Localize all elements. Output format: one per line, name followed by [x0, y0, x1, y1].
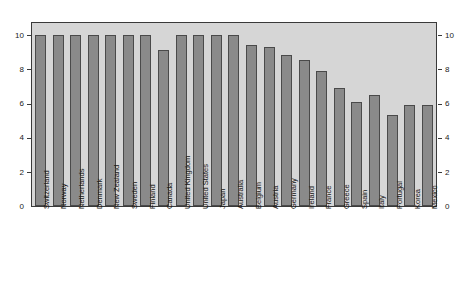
y-tick-label: 2: [445, 169, 449, 177]
x-tick-label: Finland: [149, 184, 157, 209]
x-tick-slot: Netherlands: [69, 209, 80, 295]
x-tick-slot: Spain: [352, 209, 363, 295]
bar: [211, 35, 222, 206]
x-tick-label: Denmark: [96, 179, 104, 209]
y-tick-mark: [438, 104, 442, 105]
x-tick-slot: Austria: [264, 209, 275, 295]
y-tick-label: 0: [20, 203, 24, 211]
y-tick-mark: [438, 138, 442, 139]
x-tick-slot: Italy: [370, 209, 381, 295]
x-tick-label: Korea: [414, 189, 422, 209]
x-tick-slot: New Zealand: [105, 209, 116, 295]
x-tick-slot: France: [317, 209, 328, 295]
x-tick-label: Germany: [290, 178, 298, 209]
bar: [264, 47, 275, 206]
x-tick-slot: Canada: [158, 209, 169, 295]
x-tick-slot: Denmark: [87, 209, 98, 295]
x-tick-slot: Sweden: [122, 209, 133, 295]
x-tick-label: Ireland: [308, 186, 316, 209]
bars-layer: [32, 23, 436, 206]
y-tick-label: 8: [20, 66, 24, 74]
y-tick-label: 10: [15, 32, 24, 40]
x-tick-label: United States: [202, 164, 210, 209]
bar-chart: 1086420 1086420 SwitzerlandNorwayNetherl…: [0, 0, 469, 296]
y-tick-mark: [438, 35, 442, 36]
x-tick-slot: United States: [193, 209, 204, 295]
y-tick-label: 0: [445, 203, 449, 211]
y-tick-label: 4: [445, 134, 449, 142]
x-tick-slot: Australia: [228, 209, 239, 295]
x-tick-label: Norway: [60, 184, 68, 209]
y-tick-label: 2: [20, 169, 24, 177]
x-tick-label: Greece: [343, 184, 351, 209]
x-tick-label: Spain: [361, 190, 369, 209]
bar: [140, 35, 151, 206]
x-tick-label: New Zealand: [113, 165, 121, 209]
x-axis-category-labels: SwitzerlandNorwayNetherlandsDenmarkNew Z…: [31, 209, 437, 295]
bar: [299, 60, 310, 206]
plot-area: [31, 22, 437, 207]
x-tick-slot: Germany: [281, 209, 292, 295]
x-tick-slot: Korea: [405, 209, 416, 295]
y-tick-label: 8: [445, 66, 449, 74]
x-tick-slot: United Kingdom: [175, 209, 186, 295]
x-tick-slot: Portugal: [387, 209, 398, 295]
bar: [53, 35, 64, 206]
x-tick-slot: Finland: [140, 209, 151, 295]
x-tick-label: Australia: [237, 180, 245, 209]
bar: [369, 95, 380, 206]
x-tick-label: Netherlands: [78, 169, 86, 209]
x-tick-slot: Mexico: [423, 209, 434, 295]
x-tick-label: Italy: [378, 195, 386, 209]
x-tick-label: Austria: [272, 186, 280, 209]
y-tick-label: 4: [20, 134, 24, 142]
bar: [123, 35, 134, 206]
x-tick-slot: Belgium: [246, 209, 257, 295]
y-tick-mark: [438, 172, 442, 173]
y-tick-label: 6: [445, 100, 449, 108]
x-tick-label: Sweden: [131, 182, 139, 209]
x-tick-label: Mexico: [431, 185, 439, 209]
x-tick-label: Portugal: [396, 181, 404, 209]
x-tick-label: Switzerland: [43, 170, 51, 209]
y-tick-label: 10: [445, 32, 454, 40]
x-tick-slot: Switzerland: [34, 209, 45, 295]
x-tick-label: Canada: [166, 183, 174, 209]
x-tick-slot: Japan: [211, 209, 222, 295]
y-tick-label: 6: [20, 100, 24, 108]
x-tick-label: Belgium: [255, 182, 263, 209]
y-tick-mark: [438, 69, 442, 70]
x-tick-label: United Kingdom: [184, 156, 192, 209]
y-axis-left: 1086420: [1, 22, 31, 207]
x-tick-slot: Greece: [334, 209, 345, 295]
x-tick-slot: Ireland: [299, 209, 310, 295]
x-tick-label: France: [325, 186, 333, 209]
x-tick-slot: Norway: [52, 209, 63, 295]
x-tick-label: Japan: [219, 189, 227, 209]
y-axis-right: 1086420: [438, 22, 468, 207]
